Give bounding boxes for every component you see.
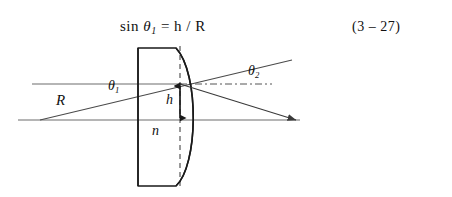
- label-theta2: θ2: [248, 63, 259, 80]
- label-theta1: θ1: [108, 78, 119, 95]
- refracted-ray-line: [180, 84, 296, 120]
- label-theta2-symbol: θ: [248, 63, 255, 78]
- label-refractive-index-n: n: [152, 123, 159, 139]
- plano-convex-lens-outline: [138, 48, 193, 186]
- label-radius-R: R: [56, 92, 65, 109]
- label-theta1-subscript: 1: [115, 85, 119, 95]
- lens-curved-surface: [176, 48, 193, 186]
- figure-page: sin θ1 = h / R (3 – 27): [0, 0, 452, 197]
- label-theta1-symbol: θ: [108, 78, 115, 93]
- label-height-h: h: [166, 92, 173, 108]
- optics-refraction-diagram: [0, 0, 452, 197]
- label-theta2-subscript: 2: [255, 70, 259, 80]
